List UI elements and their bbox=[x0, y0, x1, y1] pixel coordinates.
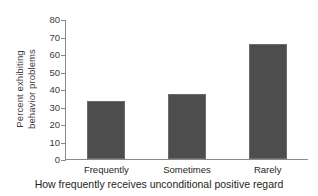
x-axis-tick-labels: FrequentlySometimesRarely bbox=[65, 164, 308, 178]
y-axis-tick-label: 50 bbox=[38, 68, 60, 78]
y-axis-title-line-2: behavior problems bbox=[25, 49, 37, 129]
y-axis-tick-label: 30 bbox=[38, 103, 60, 113]
y-axis-title-line-1: Percent exhibiting bbox=[14, 49, 26, 129]
plot-area bbox=[65, 20, 308, 160]
x-axis-line bbox=[65, 159, 308, 160]
bar bbox=[249, 44, 287, 159]
bar-series bbox=[66, 19, 308, 159]
y-axis-tick-mark bbox=[61, 160, 66, 161]
y-axis-tick-label: 70 bbox=[38, 33, 60, 43]
y-axis-tick-label: 40 bbox=[38, 85, 60, 95]
x-axis-tick-label: Sometimes bbox=[163, 164, 211, 176]
bar bbox=[87, 101, 125, 159]
x-axis-tick-label: Frequently bbox=[84, 164, 129, 176]
x-axis-title: How frequently receives unconditional po… bbox=[0, 178, 318, 191]
bar bbox=[168, 94, 206, 159]
y-axis-tick-label: 10 bbox=[38, 138, 60, 148]
y-axis-tick-label: 0 bbox=[38, 155, 60, 165]
y-axis-tick-label: 20 bbox=[38, 120, 60, 130]
y-axis-tick-label: 60 bbox=[38, 50, 60, 60]
y-axis-tick-labels: 01020304050607080 bbox=[38, 14, 60, 160]
y-axis-tick-label: 80 bbox=[38, 15, 60, 25]
bar-chart: Percent exhibiting behavior problems 010… bbox=[0, 0, 318, 196]
x-axis-tick-label: Rarely bbox=[254, 164, 281, 176]
y-axis-title-text: Percent exhibiting behavior problems bbox=[14, 49, 37, 129]
